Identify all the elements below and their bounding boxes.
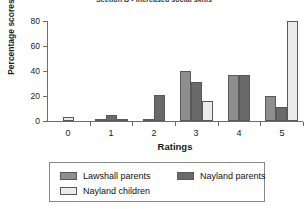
bar xyxy=(265,96,276,121)
y-tick-mark xyxy=(43,121,47,122)
chart-title: Section B - Increased social skills xyxy=(0,0,308,3)
bar xyxy=(63,117,74,121)
x-tick-mark xyxy=(218,122,219,126)
chart-figure: Section B - Increased social skills Perc… xyxy=(0,0,308,209)
y-tick-label: 40 xyxy=(0,67,40,75)
legend-item-lawshall-parents: Lawshall parents xyxy=(60,170,151,182)
bar xyxy=(202,101,213,121)
legend-swatch-icon xyxy=(177,172,194,180)
x-tick-mark xyxy=(260,122,261,126)
legend-label: Nayland children xyxy=(83,187,150,196)
legend-item-nayland-parents: Nayland parents xyxy=(177,170,266,182)
bar xyxy=(154,95,165,121)
x-tick-label: 3 xyxy=(181,128,211,138)
legend-swatch-icon xyxy=(60,187,77,195)
bar xyxy=(228,75,239,121)
bar xyxy=(143,119,154,122)
y-tick-label: 60 xyxy=(0,42,40,50)
x-tick-mark xyxy=(90,122,91,126)
x-tick-mark xyxy=(303,122,304,126)
y-tick-label: 0 xyxy=(0,117,40,125)
x-tick-label: 0 xyxy=(53,128,83,138)
x-tick-label: 1 xyxy=(96,128,126,138)
bar xyxy=(95,119,106,122)
x-tick-mark xyxy=(175,122,176,126)
x-axis-label: Ratings xyxy=(47,141,303,152)
bar xyxy=(239,75,250,121)
x-tick-label: 5 xyxy=(267,128,297,138)
y-tick-label: 80 xyxy=(0,17,40,25)
bar xyxy=(191,82,202,121)
y-tick-label: 20 xyxy=(0,92,40,100)
bar xyxy=(117,119,128,122)
legend-swatch-icon xyxy=(60,172,77,180)
x-tick-label: 2 xyxy=(139,128,169,138)
legend-label: Lawshall parents xyxy=(83,172,151,181)
x-tick-label: 4 xyxy=(224,128,254,138)
x-tick-mark xyxy=(132,122,133,126)
chart-legend: Lawshall parents Nayland parents Nayland… xyxy=(49,162,265,202)
plot-area xyxy=(47,21,303,121)
bar xyxy=(276,107,287,121)
bar xyxy=(180,71,191,121)
legend-label: Nayland parents xyxy=(200,172,266,181)
bar xyxy=(106,115,117,121)
bar xyxy=(287,21,298,121)
legend-item-nayland-children: Nayland children xyxy=(60,185,150,197)
